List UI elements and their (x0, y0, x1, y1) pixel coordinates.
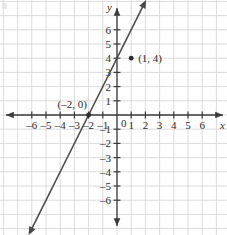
y-axis-tick-label: –5 (99, 180, 112, 192)
data-point-label: (1, 4) (138, 52, 162, 65)
y-axis-tick-label: –3 (99, 152, 112, 164)
y-axis-arrow-down (114, 218, 121, 226)
y-axis-tick-label: 5 (106, 38, 112, 50)
coordinate-graph: –6–5–4–3–2–1123456–6–5–4–3–2–11234560yx(… (0, 0, 227, 235)
axis-names: yx (106, 1, 225, 131)
y-axis-tick-label: 2 (106, 81, 112, 93)
y-axis-label: y (106, 1, 112, 13)
data-point-label: (–2, 0) (58, 98, 88, 111)
data-point (129, 56, 134, 61)
x-axis-tick-label: –3 (68, 119, 81, 131)
x-axis-tick-label: 3 (157, 119, 163, 131)
x-axis-arrow-right (215, 112, 223, 119)
x-axis-tick-label: 6 (199, 119, 205, 131)
x-axis-tick-label: 1 (128, 119, 134, 131)
axes (6, 8, 223, 226)
y-axis-arrow-up (114, 8, 121, 16)
y-axis-tick-label: –2 (99, 137, 111, 149)
y-axis-tick-label: –1 (99, 123, 111, 135)
y-axis-tick-label: 6 (106, 24, 112, 36)
y-axis-tick-label: –6 (99, 194, 112, 206)
x-axis-tick-label: –6 (25, 119, 38, 131)
y-axis-tick-label: 4 (106, 52, 112, 64)
x-axis-tick-label: 5 (185, 119, 191, 131)
x-axis-arrow-left (6, 112, 14, 119)
x-axis-tick-label: –4 (54, 119, 67, 131)
graph-canvas: –6–5–4–3–2–1123456–6–5–4–3–2–11234560yx(… (0, 0, 227, 235)
x-axis-label: x (219, 119, 225, 131)
x-axis-tick-label: 2 (143, 119, 149, 131)
data-point (86, 113, 91, 118)
y-axis-tick-label: –4 (99, 166, 112, 178)
y-axis-tick-label: 1 (106, 95, 112, 107)
x-axis-tick-label: –5 (40, 119, 53, 131)
origin-label: 0 (121, 117, 127, 129)
x-axis-tick-label: 4 (171, 119, 177, 131)
